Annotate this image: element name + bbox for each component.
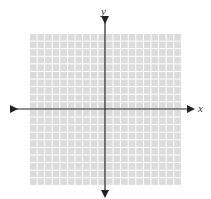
y-axis-label: y <box>101 5 106 17</box>
x-axis-label: x <box>198 102 203 114</box>
axes <box>0 0 211 199</box>
